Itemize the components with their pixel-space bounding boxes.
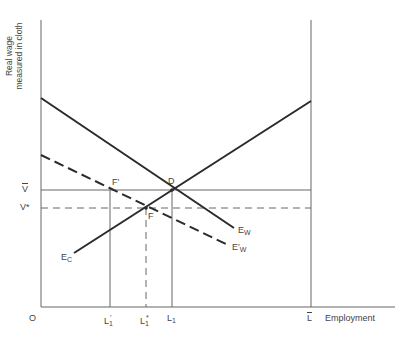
ec-sub: C [67, 256, 72, 263]
point-f-marker [144, 206, 148, 210]
ec-curve [74, 101, 311, 253]
l1-prime-sub: 1 [109, 320, 113, 327]
y-axis-label-line1: Real wage [4, 16, 14, 96]
ew-prime-sub: W [240, 246, 247, 253]
point-d-label: D [168, 177, 175, 186]
y-axis-label-line2: measured in cloth [14, 16, 24, 96]
v-bar-label: V [22, 185, 28, 194]
point-f-label: F [148, 212, 154, 221]
ew-sub: W [244, 229, 251, 236]
x-axis-label: Employment [325, 314, 375, 323]
v-star-label: V* [20, 203, 30, 212]
l1-label: L1 [167, 314, 176, 324]
point-d-marker [170, 188, 174, 192]
y-axis-label: Real wage measured in cloth [4, 16, 24, 96]
diagram-canvas [0, 0, 416, 338]
ew-prime-letter: E′ [232, 242, 240, 252]
ew-prime-curve [41, 155, 228, 245]
l1-prime-label: L1′ [104, 314, 111, 327]
ec-label: EC [61, 253, 72, 263]
point-f-prime-label: F′ [112, 178, 119, 187]
l1-star-mark: * [146, 314, 149, 321]
l1-sub: 1 [172, 317, 176, 324]
ew-label: EW [238, 226, 251, 236]
l1-star-sub: 1 [145, 320, 149, 327]
l1-star-label: L1* [140, 314, 149, 327]
origin-label: O [29, 314, 36, 323]
ew-prime-label: E′W [232, 243, 246, 253]
l-bar-label: L [307, 314, 312, 323]
